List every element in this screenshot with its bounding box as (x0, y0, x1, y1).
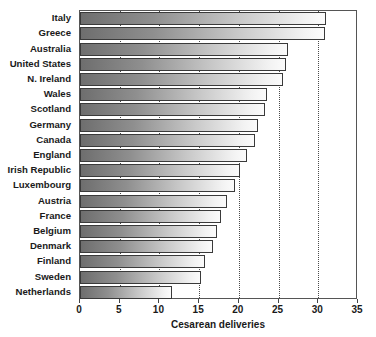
bar-chart: ItalyGreeceAustraliaUnited StatesN. Irel… (0, 0, 376, 337)
x-tick-label-15: 15 (193, 304, 204, 315)
bar-row (80, 119, 358, 132)
bar-row (80, 88, 358, 101)
bar-austria (80, 195, 227, 208)
bar-greece (80, 27, 325, 40)
x-tick-0 (79, 299, 80, 303)
bar-row (80, 149, 358, 162)
bar-row (80, 73, 358, 86)
y-axis-label-luxembourg: Luxembourg (13, 179, 71, 190)
y-axis-label-england: England (33, 149, 71, 160)
bar-row (80, 12, 358, 25)
x-axis-title: Cesarean deliveries (79, 319, 357, 330)
bar-row (80, 134, 358, 147)
bar-row (80, 58, 358, 71)
bar-row (80, 43, 358, 56)
bar-denmark (80, 240, 213, 253)
y-axis-label-greece: Greece (38, 27, 71, 38)
bar-united-states (80, 58, 286, 71)
y-axis-label-austria: Austria (38, 195, 71, 206)
bar-germany (80, 119, 258, 132)
y-axis-label-scotland: Scotland (30, 103, 71, 114)
x-tick-15 (198, 299, 199, 303)
bar-irish-republic (80, 164, 240, 177)
bar-n-ireland (80, 73, 283, 86)
y-axis-label-netherlands: Netherlands (16, 286, 71, 297)
bar-italy (80, 12, 326, 25)
bar-luxembourg (80, 179, 235, 192)
y-axis-label-germany: Germany (29, 119, 71, 130)
y-axis-label-italy: Italy (52, 12, 71, 23)
bar-row (80, 179, 358, 192)
bar-wales (80, 88, 267, 101)
bar-row (80, 286, 358, 299)
y-axis-label-finland: Finland (37, 255, 71, 266)
x-tick-label-30: 30 (312, 304, 323, 315)
y-axis-label-australia: Australia (30, 43, 71, 54)
y-axis-label-irish-republic: Irish Republic (8, 164, 71, 175)
y-axis-label-sweden: Sweden (35, 271, 71, 282)
x-tick-30 (317, 299, 318, 303)
x-tick-5 (119, 299, 120, 303)
bar-row (80, 195, 358, 208)
bar-belgium (80, 225, 217, 238)
bar-netherlands (80, 286, 172, 299)
x-tick-10 (158, 299, 159, 303)
y-axis-label-canada: Canada (36, 134, 71, 145)
bar-france (80, 210, 221, 223)
bar-row (80, 103, 358, 116)
bar-row (80, 210, 358, 223)
y-axis-label-belgium: Belgium (33, 225, 71, 236)
bar-finland (80, 255, 205, 268)
y-axis-label-denmark: Denmark (30, 240, 71, 251)
y-axis-label-n-ireland: N. Ireland (27, 73, 71, 84)
bar-row (80, 271, 358, 284)
bar-row (80, 225, 358, 238)
y-axis-label-wales: Wales (44, 88, 71, 99)
x-tick-35 (357, 299, 358, 303)
x-tick-label-0: 0 (76, 304, 82, 315)
y-axis-label-france: France (40, 210, 71, 221)
bar-sweden (80, 271, 201, 284)
bar-canada (80, 134, 255, 147)
bar-row (80, 164, 358, 177)
y-axis-label-united-states: United States (10, 58, 71, 69)
x-tick-label-10: 10 (153, 304, 164, 315)
bar-scotland (80, 103, 265, 116)
bar-australia (80, 43, 288, 56)
x-tick-25 (278, 299, 279, 303)
x-tick-label-5: 5 (116, 304, 122, 315)
bar-row (80, 240, 358, 253)
plot-area (79, 10, 357, 299)
bar-row (80, 255, 358, 268)
bar-england (80, 149, 247, 162)
x-tick-20 (238, 299, 239, 303)
bar-row (80, 27, 358, 40)
x-axis: 05101520253035 (79, 299, 357, 300)
x-tick-label-25: 25 (272, 304, 283, 315)
x-tick-label-20: 20 (232, 304, 243, 315)
plot-inner (80, 11, 356, 298)
x-tick-label-35: 35 (351, 304, 362, 315)
